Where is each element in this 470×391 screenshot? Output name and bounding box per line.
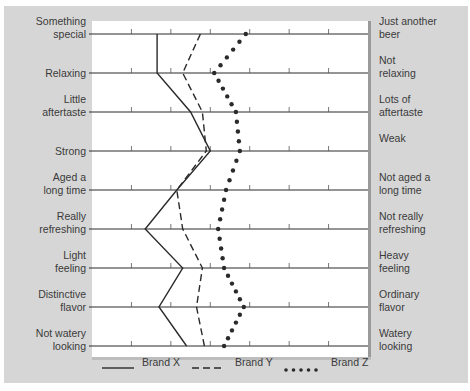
brand-z-point: [217, 237, 221, 241]
brand-z-point: [226, 336, 230, 340]
right-anchor-label: Lots ofaftertaste: [379, 93, 423, 118]
right-anchor-label-line: Just another: [379, 15, 437, 27]
brand-z-point: [238, 313, 242, 317]
right-anchor-label: Ordinaryflavor: [379, 288, 420, 313]
right-anchor-label-line: relaxing: [379, 67, 416, 79]
right-anchor-label-line: Lots of: [379, 93, 411, 105]
left-anchor-label-line: aftertaste: [42, 106, 86, 118]
brand-z-point: [216, 79, 220, 83]
left-anchor-label-line: Little: [64, 93, 86, 105]
brand-z-point: [222, 344, 226, 348]
brand-z-point: [229, 102, 233, 106]
brand-z-point: [220, 207, 224, 211]
right-anchor-label: Notrelaxing: [379, 54, 416, 79]
legend-swatch-brand-z: [314, 368, 318, 372]
legend-swatch-brand-z: [307, 368, 311, 372]
right-anchor-label-line: Watery: [379, 327, 413, 339]
brand-z-point: [226, 274, 230, 278]
right-anchor-label-line: flavor: [379, 301, 405, 313]
brand-z-point: [225, 94, 229, 98]
brand-z-point: [234, 110, 238, 114]
left-anchor-label: Aged along time: [43, 171, 86, 196]
brand-z-point: [219, 246, 223, 250]
right-anchor-label-line: Heavy: [379, 249, 410, 261]
left-anchor-label-line: Aged a: [53, 171, 86, 183]
left-anchor-label-line: long time: [43, 184, 86, 196]
plot-shadow-bottom: [92, 357, 371, 360]
legend-label-brand-z: Brand Z: [331, 356, 369, 368]
legend-swatch-brand-z: [292, 368, 296, 372]
brand-z-point: [216, 227, 220, 231]
left-anchor-label-line: looking: [53, 340, 86, 352]
legend-swatch-brand-z: [284, 368, 288, 372]
brand-z-point: [234, 320, 238, 324]
left-anchor-label-line: special: [53, 28, 86, 40]
left-anchor-label-line: Not watery: [36, 327, 87, 339]
brand-z-point: [242, 305, 246, 309]
legend-label-brand-x: Brand X: [142, 356, 180, 368]
left-anchor-label: Littleaftertaste: [42, 93, 86, 118]
right-anchor-label-line: long time: [379, 184, 422, 196]
brand-z-point: [236, 129, 240, 133]
left-anchor-label-line: flavor: [60, 301, 86, 313]
brand-z-point: [212, 71, 216, 75]
brand-z-point: [231, 47, 235, 51]
left-anchor-label: Reallyrefreshing: [39, 210, 86, 235]
right-anchor-label-line: beer: [379, 28, 401, 40]
left-anchor-label-line: feeling: [55, 262, 86, 274]
right-anchor-label-line: refreshing: [379, 223, 426, 235]
brand-z-point: [235, 120, 239, 124]
left-anchor-label: Distinctiveflavor: [38, 288, 86, 313]
left-anchor-label-line: Light: [63, 249, 86, 261]
left-anchor-label-line: refreshing: [39, 223, 86, 235]
legend-swatch-brand-z: [299, 368, 303, 372]
legend-label-brand-y: Brand Y: [235, 356, 273, 368]
right-anchor-label-line: Weak: [379, 132, 406, 144]
profile-chart: SomethingspecialRelaxingLittleaftertaste…: [0, 0, 470, 391]
brand-z-point: [238, 149, 242, 153]
right-anchor-label-line: Not aged a: [379, 171, 431, 183]
right-anchor-label-line: Not really: [379, 210, 424, 222]
right-anchor-label: Waterylooking: [379, 327, 413, 352]
brand-z-point: [238, 297, 242, 301]
right-anchor-label: Heavyfeeling: [379, 249, 410, 274]
left-anchor-label-line: Relaxing: [45, 67, 86, 79]
brand-z-point: [221, 86, 225, 90]
brand-z-point: [234, 289, 238, 293]
brand-z-point: [218, 217, 222, 221]
brand-z-point: [225, 55, 229, 59]
brand-z-point: [218, 63, 222, 67]
left-anchor-label-line: Distinctive: [38, 288, 86, 300]
brand-z-point: [237, 40, 241, 44]
right-anchor-label-line: looking: [379, 340, 412, 352]
brand-z-point: [244, 32, 248, 36]
brand-z-point: [234, 159, 238, 163]
left-anchor-label: Strong: [55, 145, 86, 157]
right-anchor-label-line: aftertaste: [379, 106, 423, 118]
brand-z-point: [222, 198, 226, 202]
brand-z-point: [230, 328, 234, 332]
right-anchor-label-line: feeling: [379, 262, 410, 274]
brand-z-point: [230, 281, 234, 285]
right-anchor-label: Not reallyrefreshing: [379, 210, 426, 235]
left-anchor-label: Lightfeeling: [55, 249, 86, 274]
brand-z-point: [220, 256, 224, 260]
brand-z-point: [224, 188, 228, 192]
plot-shadow-right: [368, 21, 371, 360]
left-anchor-label: Somethingspecial: [36, 15, 86, 40]
right-anchor-label: Just anotherbeer: [379, 15, 437, 40]
brand-z-point: [231, 168, 235, 172]
left-anchor-label-line: Something: [36, 15, 86, 27]
brand-z-point: [227, 178, 231, 182]
right-anchor-label-line: Not: [379, 54, 395, 66]
left-anchor-label-line: Strong: [55, 145, 86, 157]
left-anchor-label: Not waterylooking: [36, 327, 87, 352]
brand-z-point: [222, 266, 226, 270]
right-anchor-label: Weak: [379, 132, 406, 144]
right-anchor-label: Not aged along time: [379, 171, 431, 196]
left-anchor-label: Relaxing: [45, 67, 86, 79]
brand-z-point: [237, 139, 241, 143]
left-anchor-label-line: Really: [57, 210, 87, 222]
right-anchor-label-line: Ordinary: [379, 288, 420, 300]
